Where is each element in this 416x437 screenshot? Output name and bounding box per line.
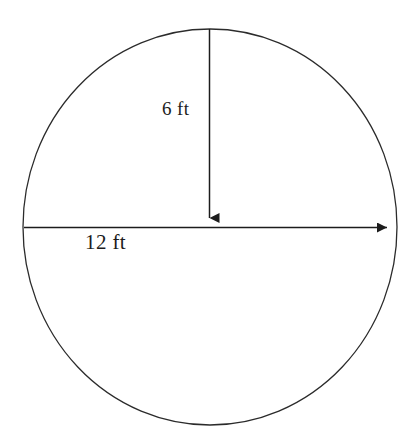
- diagram-canvas: [0, 0, 416, 437]
- radius-label: 6 ft: [162, 98, 189, 120]
- diameter-label: 12 ft: [85, 230, 126, 254]
- circle-diagram-figure: 6 ft 12 ft: [0, 0, 416, 437]
